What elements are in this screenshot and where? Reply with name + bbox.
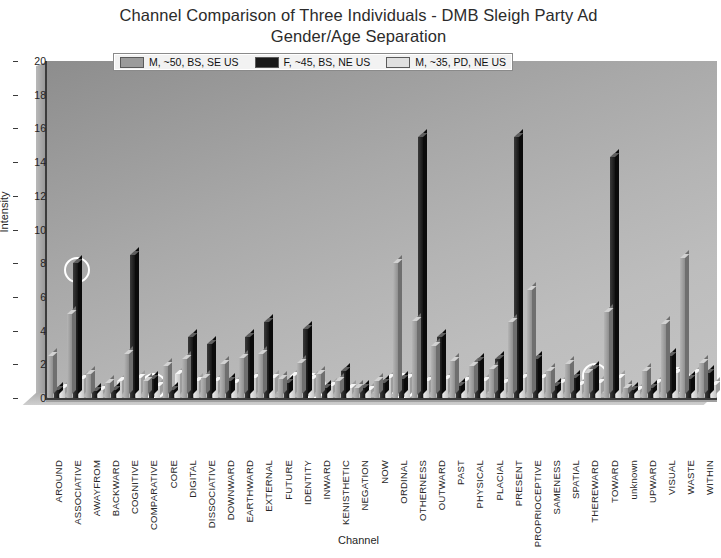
chart-legend: M, ~50, BS, SE US F, ~45, BS, NE US M, ~… [113, 53, 513, 71]
bar [527, 290, 532, 398]
bar-side [398, 255, 402, 394]
bar-group [278, 61, 296, 398]
bar [278, 379, 283, 398]
y-tick-mark-12 [13, 196, 18, 197]
bar-face [316, 374, 321, 398]
x-tick-label: FUTURE [283, 460, 294, 500]
bar-group [623, 61, 641, 398]
legend-label-series-0: M, ~50, BS, SE US [149, 56, 239, 68]
y-tick-4: 4 [16, 325, 46, 337]
bar [105, 383, 110, 398]
bar-face [508, 322, 513, 398]
bar-group [565, 61, 583, 398]
y-tick-2: 2 [16, 358, 46, 370]
bar-side [442, 329, 446, 394]
bar [220, 364, 225, 398]
bar-group [316, 61, 334, 398]
bar-group [584, 61, 602, 398]
bar-face [278, 379, 283, 398]
bar-side [519, 129, 523, 394]
x-tick-label: WITHIN [704, 460, 715, 495]
plot-area: 02468101214161820 Intensity AROUNDASSOCI… [22, 56, 717, 401]
bar [354, 388, 359, 398]
bar-side [615, 149, 619, 394]
bar-face [48, 356, 53, 398]
bar-side [417, 313, 421, 395]
y-tick-mark-2 [13, 364, 18, 365]
bar [258, 354, 263, 398]
bar-group [508, 61, 526, 398]
bar-face [527, 290, 532, 398]
bar-group [143, 61, 161, 398]
x-tick-label: EARTHWARD [244, 460, 255, 523]
bar-group [297, 61, 315, 398]
y-tick-20: 20 [16, 55, 46, 67]
bar [431, 346, 436, 398]
bar-group [661, 61, 679, 398]
bar-group [680, 61, 698, 398]
x-tick-label: AROUND [53, 460, 64, 502]
bar [182, 359, 187, 398]
y-tick-18: 18 [16, 89, 46, 101]
bar-face [412, 321, 417, 399]
x-tick-label: IDENTITY [302, 460, 313, 505]
bar-group [163, 61, 181, 398]
bar-group [335, 61, 353, 398]
bar [297, 363, 302, 398]
bar-group [450, 61, 468, 398]
bar-group [642, 61, 660, 398]
bar-face [163, 366, 168, 398]
bar-face [393, 263, 398, 398]
bar [124, 354, 129, 398]
bar [48, 356, 53, 398]
x-tick-label: NEGATION [359, 460, 370, 511]
legend-swatch-series-2 [386, 57, 410, 68]
bar [661, 324, 666, 398]
legend-item-1: F, ~45, BS, NE US [255, 56, 371, 68]
bar-face [86, 374, 91, 398]
bar-group [354, 61, 372, 398]
bar-side [250, 329, 254, 394]
y-tick-8: 8 [16, 257, 46, 269]
bar-face [699, 363, 704, 398]
bar-group [527, 61, 545, 398]
chart-title-line-2: Gender/Age Separation [0, 26, 717, 47]
bar-group [393, 61, 411, 398]
bar-face [105, 383, 110, 398]
bar-side [193, 329, 197, 394]
bar-side [716, 377, 720, 394]
bar-face [623, 388, 628, 398]
bar-side [666, 316, 670, 394]
bar-group [239, 61, 257, 398]
x-tick-label: KENISTHETIC [340, 460, 351, 525]
y-tick-mark-10 [13, 230, 18, 231]
bar-side [513, 314, 517, 394]
bar-face [67, 314, 72, 398]
bar-side [269, 314, 273, 394]
bar [412, 321, 417, 399]
bar-side [685, 250, 689, 394]
bar [584, 373, 589, 398]
x-tick-label: EXTERNAL [263, 460, 274, 512]
y-tick-mark-16 [13, 128, 18, 129]
bar-group [546, 61, 564, 398]
bar [604, 312, 609, 398]
bar-face [335, 381, 340, 398]
bar-side [436, 338, 440, 394]
bar [374, 381, 379, 398]
bar [546, 371, 551, 398]
bar [86, 374, 91, 398]
x-tick-label: unknown [628, 460, 639, 499]
y-tick-12: 12 [16, 190, 46, 202]
bar-face [661, 324, 666, 398]
y-tick-6: 6 [16, 291, 46, 303]
x-tick-label: ASSOCIATIVE [72, 460, 83, 525]
bar [316, 374, 321, 398]
bar-group [258, 61, 276, 398]
bar-group [604, 61, 622, 398]
chart-title-line-1: Channel Comparison of Three Individuals … [0, 5, 717, 26]
x-tick-label: OUTWARD [436, 460, 447, 510]
bar [393, 263, 398, 398]
x-axis-line [45, 398, 717, 400]
